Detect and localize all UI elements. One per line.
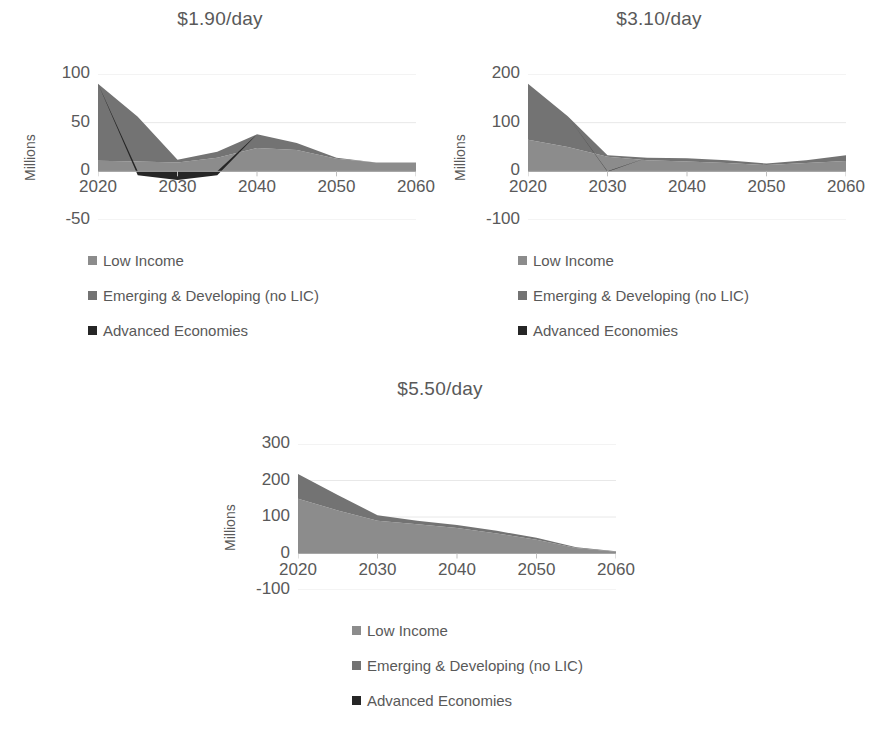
- y-tick-label: 200: [236, 470, 290, 490]
- legend-label: Emerging & Developing (no LIC): [367, 657, 583, 674]
- plot-wrapper: [528, 74, 846, 220]
- x-tick-label: 2050: [497, 560, 577, 580]
- chart-panel-chart-310: $3.10/dayMillions2001000-100202020302040…: [440, 8, 878, 30]
- chart-legend: Low IncomeEmerging & Developing (no LIC)…: [352, 622, 583, 727]
- legend-item[interactable]: Low Income: [518, 252, 749, 269]
- x-tick-label: 2030: [138, 177, 218, 197]
- legend-item[interactable]: Emerging & Developing (no LIC): [352, 657, 583, 674]
- y-tick-label: 200: [466, 63, 520, 83]
- legend-label: Advanced Economies: [103, 322, 248, 339]
- x-tick-label: 2020: [58, 177, 138, 197]
- legend-label: Advanced Economies: [533, 322, 678, 339]
- legend-swatch-icon: [352, 626, 361, 635]
- chart-title: $3.10/day: [440, 8, 878, 30]
- chart-title: $1.90/day: [0, 8, 440, 30]
- legend-label: Low Income: [103, 252, 184, 269]
- legend-swatch-icon: [518, 291, 527, 300]
- legend-label: Emerging & Developing (no LIC): [533, 287, 749, 304]
- legend-label: Low Income: [533, 252, 614, 269]
- x-tick-label: 2050: [297, 177, 377, 197]
- legend-item[interactable]: Emerging & Developing (no LIC): [88, 287, 319, 304]
- legend-item[interactable]: Advanced Economies: [352, 692, 583, 709]
- x-tick-label: 2020: [258, 560, 338, 580]
- legend-item[interactable]: Advanced Economies: [518, 322, 749, 339]
- x-tick-label: 2060: [576, 560, 656, 580]
- x-tick-label: 2060: [806, 177, 878, 197]
- x-tick-label: 2050: [727, 177, 807, 197]
- legend-item[interactable]: Low Income: [352, 622, 583, 639]
- legend-label: Low Income: [367, 622, 448, 639]
- legend-swatch-icon: [88, 256, 97, 265]
- x-tick-label: 2040: [647, 177, 727, 197]
- x-tick-label: 2030: [338, 560, 418, 580]
- x-tick-label: 2020: [488, 177, 568, 197]
- legend-label: Advanced Economies: [367, 692, 512, 709]
- legend-item[interactable]: Advanced Economies: [88, 322, 319, 339]
- y-tick-label: -100: [236, 579, 290, 599]
- legend-swatch-icon: [88, 291, 97, 300]
- chart-legend: Low IncomeEmerging & Developing (no LIC)…: [518, 252, 749, 357]
- x-tick-label: 2030: [568, 177, 648, 197]
- chart-panel-chart-550: $5.50/dayMillions3002001000-100202020302…: [200, 378, 680, 400]
- legend-item[interactable]: Emerging & Developing (no LIC): [518, 287, 749, 304]
- y-tick-label: 50: [36, 112, 90, 132]
- legend-swatch-icon: [518, 256, 527, 265]
- plot-area: [528, 74, 846, 220]
- chart-title: $5.50/day: [200, 378, 680, 400]
- legend-swatch-icon: [518, 326, 527, 335]
- legend-label: Emerging & Developing (no LIC): [103, 287, 319, 304]
- y-tick-label: 100: [236, 506, 290, 526]
- legend-swatch-icon: [88, 326, 97, 335]
- plot-wrapper: [98, 74, 416, 220]
- chart-legend: Low IncomeEmerging & Developing (no LIC)…: [88, 252, 319, 357]
- legend-item[interactable]: Low Income: [88, 252, 319, 269]
- y-tick-label: -100: [466, 209, 520, 229]
- x-tick-label: 2040: [217, 177, 297, 197]
- x-tick-label: 2040: [417, 560, 497, 580]
- y-tick-label: 100: [36, 63, 90, 83]
- plot-area: [98, 74, 416, 220]
- chart-panel-chart-190: $1.90/dayMillions100500-5020202030204020…: [0, 8, 440, 30]
- x-tick-label: 2060: [376, 177, 456, 197]
- legend-swatch-icon: [352, 661, 361, 670]
- y-tick-label: 100: [466, 112, 520, 132]
- y-tick-label: -50: [36, 209, 90, 229]
- y-tick-label: 300: [236, 433, 290, 453]
- legend-swatch-icon: [352, 696, 361, 705]
